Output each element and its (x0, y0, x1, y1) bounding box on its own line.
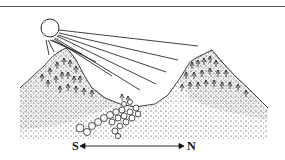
direction-arrow (80, 144, 184, 149)
south-label: S (72, 140, 79, 152)
sun (41, 19, 59, 37)
north-label: N (187, 140, 196, 152)
valley-diagram (0, 0, 285, 160)
